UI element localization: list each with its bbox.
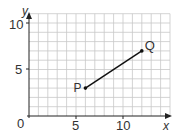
point-p [84,86,88,90]
point-q-label: Q [145,38,155,53]
point-p-label: P [73,81,81,95]
origin-label: 0 [17,116,24,131]
x-tick-label-5: 5 [72,118,79,133]
tick-marks [26,23,123,119]
coordinate-grid-chart: y x 0 5 10 5 10 P Q [0,0,182,137]
y-axis-label: y [21,4,29,18]
y-tick-label-5: 5 [15,62,22,77]
y-tick-label-10: 10 [9,17,23,32]
grid-lines [29,14,170,116]
point-q [140,49,144,53]
x-axis-label: x [162,119,170,133]
x-tick-label-10: 10 [116,118,130,133]
